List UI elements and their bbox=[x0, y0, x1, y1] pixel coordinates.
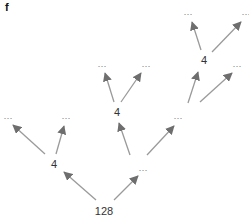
node-ellipsis: ··· bbox=[233, 62, 242, 71]
edge-arrow-a-to-a1 bbox=[13, 125, 45, 154]
node-ellipsis: ··· bbox=[142, 62, 151, 71]
edge-arrow-e-to-e2 bbox=[212, 22, 241, 52]
node-ellipsis: ··· bbox=[139, 166, 148, 175]
edge-arrow-e-to-e1 bbox=[192, 22, 201, 50]
edge-arrow-root-to-b bbox=[114, 176, 138, 200]
edge-arrow-b-to-c bbox=[119, 123, 130, 155]
node-value: 4 bbox=[201, 55, 207, 66]
tree-edges bbox=[0, 0, 249, 217]
node-value: 128 bbox=[95, 206, 113, 217]
node-ellipsis: ··· bbox=[242, 10, 250, 19]
edge-arrow-c-to-c1 bbox=[105, 73, 114, 102]
node-ellipsis: ··· bbox=[98, 62, 107, 71]
edge-arrow-a-to-a2 bbox=[56, 126, 64, 154]
node-ellipsis: ··· bbox=[184, 10, 193, 19]
node-ellipsis: ··· bbox=[4, 114, 13, 123]
node-value: 4 bbox=[51, 159, 57, 170]
node-ellipsis: ··· bbox=[174, 114, 183, 123]
edge-arrow-d-to-e bbox=[188, 72, 198, 103]
node-value: 4 bbox=[114, 107, 120, 118]
edge-arrow-b-to-d bbox=[147, 126, 174, 155]
edge-arrow-root-to-a bbox=[64, 172, 96, 200]
edge-arrow-c-to-c2 bbox=[121, 73, 141, 102]
edge-arrow-d-to-d2 bbox=[200, 73, 232, 102]
node-ellipsis: ··· bbox=[62, 114, 71, 123]
